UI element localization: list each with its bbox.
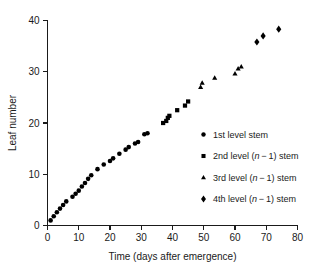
- x-tick-label: 30: [136, 232, 148, 243]
- data-point: [80, 184, 85, 189]
- legend-entry-4[interactable]: 4th level (n − 1) stem: [201, 194, 296, 204]
- x-tick-label: 40: [167, 232, 179, 243]
- data-point: [186, 99, 190, 103]
- data-point: [261, 32, 266, 39]
- data-point: [111, 156, 116, 161]
- data-point: [254, 38, 259, 45]
- x-tick-label: 20: [104, 232, 116, 243]
- data-point: [276, 26, 281, 33]
- series-2-points: [161, 99, 190, 125]
- data-point: [51, 214, 56, 219]
- data-point: [183, 103, 187, 107]
- data-point: [239, 64, 244, 68]
- y-tick-label: 20: [28, 118, 40, 129]
- data-point: [95, 167, 100, 172]
- x-tick-label: 70: [261, 232, 273, 243]
- series-3-points: [198, 64, 244, 89]
- scatter-plot: 01020304050607080010203040 Time (days af…: [0, 0, 317, 277]
- x-tick-label: 0: [45, 232, 51, 243]
- data-point: [175, 108, 179, 112]
- y-axis-title: Leaf number: [7, 94, 18, 151]
- data-points-group: [48, 26, 281, 223]
- data-point: [145, 131, 150, 136]
- data-point: [61, 203, 66, 208]
- y-tick-label: 40: [28, 15, 40, 26]
- y-tick-label: 30: [28, 66, 40, 77]
- data-point: [48, 218, 53, 223]
- x-tick-label: 10: [73, 232, 85, 243]
- legend-entry-2[interactable]: 2nd level (n − 1) stem: [201, 151, 298, 161]
- legend-label: 1st level stem: [213, 130, 268, 140]
- data-point: [136, 140, 141, 145]
- y-tick-label: 0: [34, 220, 40, 231]
- chart-figure: 01020304050607080010203040 Time (days af…: [0, 0, 317, 277]
- data-point: [101, 162, 106, 167]
- data-point: [58, 206, 63, 211]
- data-point: [64, 199, 69, 204]
- data-point: [117, 151, 122, 156]
- legend-marker-triangle-icon: [201, 175, 206, 179]
- data-point: [76, 188, 81, 193]
- data-point: [55, 210, 60, 215]
- series-4-points: [254, 26, 281, 46]
- legend-marker-square-icon: [201, 154, 205, 158]
- legend-marker-diamond-icon: [201, 196, 206, 203]
- data-point: [89, 173, 94, 178]
- legend-label: 3rd level (n − 1) stem: [213, 173, 296, 183]
- data-point: [232, 71, 237, 75]
- x-tick-label: 50: [198, 232, 210, 243]
- x-tick-label: 60: [229, 232, 241, 243]
- data-point: [126, 145, 131, 150]
- legend-marker-circle-icon: [201, 132, 205, 136]
- x-tick-label: 80: [292, 232, 304, 243]
- legend-label: 4th level (n − 1) stem: [213, 194, 296, 204]
- x-axis-title: Time (days after emergence): [108, 251, 236, 262]
- legend-entry-1[interactable]: 1st level stem: [201, 130, 268, 140]
- data-point: [198, 84, 203, 88]
- data-point: [200, 80, 205, 84]
- data-point: [167, 114, 171, 118]
- legend-entry-3[interactable]: 3rd level (n − 1) stem: [201, 173, 296, 183]
- chart-legend: 1st level stem2nd level (n − 1) stem3rd …: [201, 130, 298, 205]
- data-point: [212, 75, 217, 79]
- data-point: [83, 181, 88, 186]
- legend-label: 2nd level (n − 1) stem: [213, 151, 298, 161]
- data-point: [86, 177, 91, 182]
- y-tick-label: 10: [28, 169, 40, 180]
- series-1-points: [48, 131, 149, 223]
